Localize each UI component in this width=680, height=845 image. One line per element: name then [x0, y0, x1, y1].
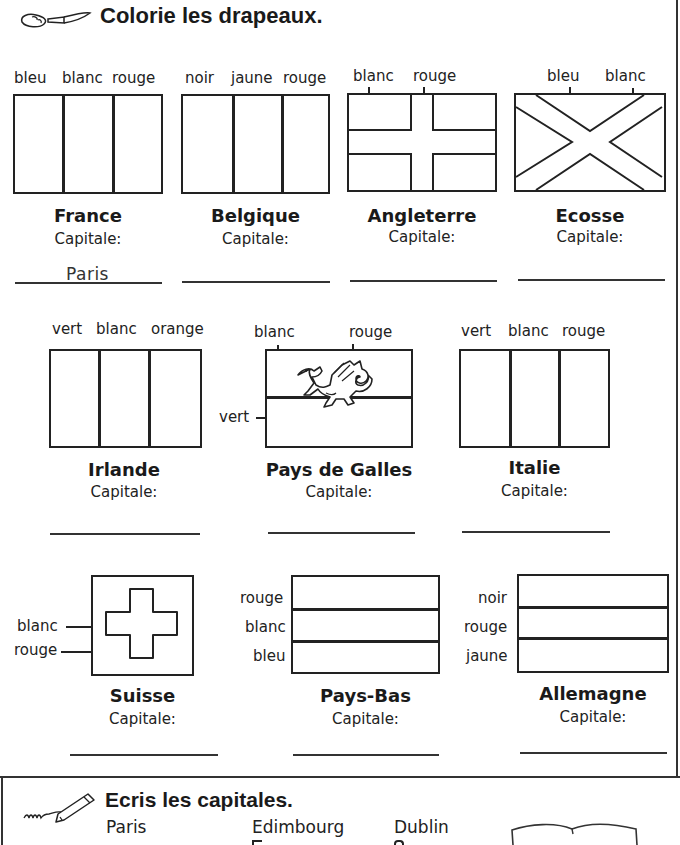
page-border-right	[676, 0, 678, 778]
capital-label: Capitale:	[259, 483, 419, 501]
section-title-ecris: Ecris les capitales.	[105, 788, 293, 812]
color-label: orange	[151, 320, 204, 338]
capital-word: Paris	[106, 817, 146, 837]
color-label: rouge	[413, 67, 456, 85]
dragon-icon	[290, 357, 382, 417]
swiss-cross-shape	[91, 575, 194, 676]
color-label: blanc	[17, 617, 58, 635]
color-label: jaune	[466, 647, 508, 665]
country-name: Pays de Galles	[259, 459, 419, 480]
color-label: vert	[461, 322, 491, 340]
open-book-icon	[510, 820, 640, 845]
country-name: Irlande	[49, 459, 199, 480]
color-label: blanc	[508, 322, 549, 340]
country-name: France	[13, 205, 163, 226]
stripe-divider	[519, 606, 667, 609]
cross-shape	[347, 93, 497, 192]
flag-france[interactable]	[13, 94, 163, 194]
stripe-divider	[509, 351, 512, 446]
paintbrush-icon	[18, 8, 92, 30]
color-label: jaune	[231, 69, 273, 87]
color-label: rouge	[112, 69, 155, 87]
color-label: blanc	[245, 618, 286, 636]
flag-allemagne[interactable]	[517, 574, 669, 673]
capital-label: Capitale:	[80, 710, 205, 728]
color-label: rouge	[14, 641, 57, 659]
capital-word-cropped	[106, 838, 166, 845]
stripe-divider	[98, 351, 101, 446]
color-label: blanc	[254, 323, 295, 341]
color-label: bleu	[547, 67, 579, 85]
color-label: noir	[478, 589, 507, 607]
answer-line-pays-de-galles[interactable]	[268, 532, 415, 534]
capital-label: Capitale:	[181, 230, 330, 248]
answer-line-ecosse[interactable]	[518, 279, 665, 281]
stripe-divider	[112, 96, 115, 192]
stripe-divider	[148, 351, 151, 446]
color-label: rouge	[349, 323, 392, 341]
color-label: rouge	[464, 618, 507, 636]
answer-line-italie[interactable]	[462, 531, 610, 533]
country-name: Suisse	[91, 685, 194, 706]
stripe-divider	[293, 608, 438, 611]
saltire-shape	[514, 93, 666, 192]
color-label: blanc	[96, 320, 137, 338]
country-name: Ecosse	[514, 205, 666, 226]
answer-line-irlande[interactable]	[50, 533, 200, 535]
stripe-divider	[62, 96, 65, 192]
country-name: Belgique	[181, 205, 330, 226]
section-divider	[0, 776, 680, 778]
color-label: bleu	[14, 69, 46, 87]
answer-line-allemagne[interactable]	[520, 752, 667, 754]
capital-label: Capitale:	[517, 708, 669, 726]
capital-word: Edimbourg	[252, 817, 344, 837]
capital-label: Capitale:	[347, 228, 497, 246]
capital-answer: Paris	[66, 264, 109, 284]
capital-label: Capitale:	[13, 230, 163, 248]
capital-label: Capitale:	[49, 483, 199, 501]
color-label: noir	[185, 69, 214, 87]
color-label: rouge	[283, 69, 326, 87]
capital-label: Capitale:	[291, 710, 440, 728]
country-name: Allemagne	[517, 683, 669, 704]
capital-word: Dublin	[394, 817, 449, 837]
flag-belgique[interactable]	[181, 94, 330, 194]
stripe-divider	[519, 637, 667, 640]
capital-word-cropped	[394, 840, 404, 845]
country-name: Pays-Bas	[291, 685, 440, 706]
capital-word-cropped	[252, 840, 262, 845]
page-border-left	[1, 778, 3, 845]
color-label: bleu	[253, 647, 285, 665]
capital-label: Capitale:	[459, 482, 610, 500]
flag-irlande[interactable]	[49, 349, 202, 448]
country-name: Italie	[459, 457, 610, 478]
answer-line-pays-bas[interactable]	[293, 754, 439, 756]
country-name: Angleterre	[347, 205, 497, 226]
answer-line-belgique[interactable]	[182, 281, 330, 283]
color-label: rouge	[240, 589, 283, 607]
answer-line-angleterre[interactable]	[350, 280, 497, 282]
pencil-icon	[22, 790, 96, 824]
color-label: vert	[219, 408, 249, 426]
capital-label: Capitale:	[514, 228, 666, 246]
color-label: rouge	[562, 322, 605, 340]
color-label: blanc	[353, 67, 394, 85]
stripe-divider	[558, 351, 561, 446]
stripe-divider	[281, 96, 284, 192]
stripe-divider	[232, 96, 235, 192]
answer-line-suisse[interactable]	[70, 754, 218, 756]
color-label: blanc	[62, 69, 103, 87]
color-label: vert	[52, 320, 82, 338]
section-title-colorie: Colorie les drapeaux.	[100, 3, 323, 29]
stripe-divider	[293, 640, 438, 643]
color-label: blanc	[605, 67, 646, 85]
flag-italie[interactable]	[459, 349, 610, 448]
answer-line-france[interactable]	[15, 282, 162, 284]
flag-pays-bas[interactable]	[291, 575, 440, 674]
